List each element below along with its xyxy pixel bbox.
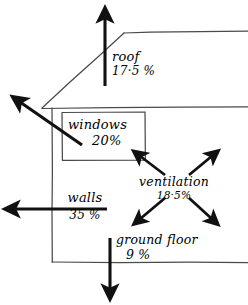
roof-label-name: roof xyxy=(112,50,155,64)
roof-label: roof 17·5 % xyxy=(112,50,155,78)
ventilation-label-name: ventilation xyxy=(131,175,217,189)
windows-label-name: windows xyxy=(68,118,127,132)
ground-floor-line xyxy=(52,262,248,263)
walls-label-name: walls xyxy=(59,191,111,205)
ventilation-arrow-up-right xyxy=(189,156,212,175)
ground-floor-label-name: ground floor xyxy=(116,233,198,247)
ventilation-label: ventilation 18·5% xyxy=(131,175,217,201)
ground-floor-label-value: 9 % xyxy=(126,248,198,262)
walls-label-value: 35 % xyxy=(59,209,111,222)
windows-label: windows 20% xyxy=(68,118,127,148)
ground-floor-label: ground floor 9 % xyxy=(116,233,198,261)
heat-loss-diagram: roof 17·5 % windows 20% walls 35 % venti… xyxy=(0,0,248,305)
windows-label-value: 20% xyxy=(92,134,127,148)
ventilation-arrow-up-left xyxy=(140,156,165,175)
ceiling-line xyxy=(42,107,248,109)
walls-label: walls 35 % xyxy=(59,191,111,222)
roof-ridge-line xyxy=(124,31,248,33)
ventilation-label-value: 18·5% xyxy=(131,190,217,201)
roof-label-value: 17·5 % xyxy=(112,65,155,78)
ventilation-arrow-down-right xyxy=(189,198,212,219)
ventilation-arrow-down-left xyxy=(140,198,165,219)
